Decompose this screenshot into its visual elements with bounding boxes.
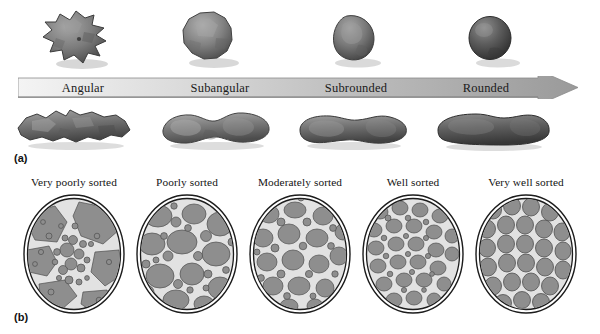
roundness-label-rounded: Rounded <box>436 79 536 97</box>
sorting-cell-very-well-sorted: Very well sorted <box>470 172 582 322</box>
rounded-clast-bottom <box>432 107 556 153</box>
subrounded-clast-bottom <box>292 106 414 152</box>
roundness-label-subrounded: Subrounded <box>304 79 408 97</box>
sorting-label-well-sorted: Well sorted <box>357 176 469 188</box>
sorting-circle-moderately-sorted <box>247 192 353 316</box>
angular-clast-bottom <box>12 104 137 152</box>
sorting-label-very-well-sorted: Very well sorted <box>470 176 582 188</box>
sorting-cell-well-sorted: Well sorted <box>357 172 469 322</box>
subangular-clast-bottom <box>155 104 277 152</box>
roundness-sorting-figure: Angular Subangular Subrounded Rounded <box>0 0 600 334</box>
subangular-clast-top <box>170 8 244 70</box>
roundness-label-angular: Angular <box>33 79 133 97</box>
sorting-circle-very-well-sorted <box>473 192 579 316</box>
sorting-cell-poorly-sorted: Poorly sorted <box>131 172 243 322</box>
panel-b-sorting: Very poorly sorted <box>0 172 600 334</box>
panel-tag-b: (b) <box>14 311 28 323</box>
sorting-label-poorly-sorted: Poorly sorted <box>131 176 243 188</box>
sorting-cell-moderately-sorted: Moderately sorted <box>244 172 356 322</box>
roundness-label-subangular: Subangular <box>168 79 272 97</box>
sorting-label-moderately-sorted: Moderately sorted <box>244 176 356 188</box>
sorting-circle-well-sorted <box>360 192 466 316</box>
sorting-circle-very-poorly-sorted <box>21 192 127 316</box>
sorting-circle-poorly-sorted <box>134 192 240 316</box>
sorting-cell-very-poorly-sorted: Very poorly sorted <box>18 172 130 322</box>
panel-tag-a: (a) <box>14 152 27 164</box>
sorting-label-very-poorly-sorted: Very poorly sorted <box>18 176 130 188</box>
panel-a-roundness: Angular Subangular Subrounded Rounded <box>0 0 600 172</box>
subrounded-clast-top <box>318 12 388 70</box>
angular-clast-top <box>38 8 112 70</box>
rounded-clast-top <box>460 14 526 70</box>
